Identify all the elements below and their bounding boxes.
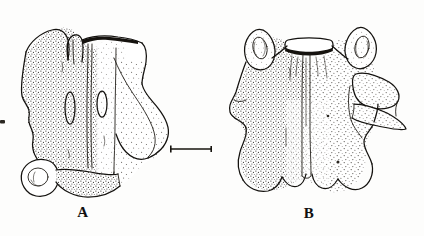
left-edge-smudge (0, 120, 5, 124)
figure-plate: A B (0, 0, 424, 236)
specimen-b-surface-mark-3 (337, 161, 340, 164)
specimen-b-neural-canal (285, 38, 333, 56)
panel-label-a: A (66, 205, 100, 220)
specimen-a-articular-facet (21, 160, 58, 197)
panel-label-b: B (292, 206, 326, 221)
specimen-b-surface-mark-2 (327, 115, 330, 118)
specimen-figure-svg (0, 0, 424, 236)
